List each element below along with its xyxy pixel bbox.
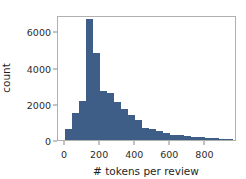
histogram-bar xyxy=(65,129,72,140)
x-axis-label: # tokens per review xyxy=(93,165,199,177)
histogram-bar xyxy=(205,138,212,140)
histogram-bar xyxy=(114,102,121,140)
plot-area xyxy=(57,16,236,141)
histogram-bar xyxy=(156,131,163,140)
histogram-bar xyxy=(142,128,149,140)
histogram-bar xyxy=(177,135,184,140)
x-tick-mark xyxy=(99,141,100,145)
y-axis: count 0200040006000 xyxy=(0,0,57,179)
histogram-bar xyxy=(149,129,156,140)
histogram-bar xyxy=(107,93,114,140)
x-tick-mark xyxy=(169,141,170,145)
histogram-bar xyxy=(184,136,191,140)
y-tick-label: 6000 xyxy=(27,27,51,38)
y-tick-label: 2000 xyxy=(27,99,51,110)
histogram-figure: count 0200040006000 # tokens per review … xyxy=(0,0,246,179)
x-axis: # tokens per review 0200400600800 xyxy=(57,141,236,179)
x-tick-mark xyxy=(64,141,65,145)
histogram-bars xyxy=(58,17,235,140)
histogram-bar xyxy=(170,135,177,140)
y-axis-label: count xyxy=(0,63,12,93)
x-tick-label: 200 xyxy=(90,149,108,160)
x-tick-label: 600 xyxy=(160,149,178,160)
histogram-bar xyxy=(163,133,170,140)
x-tick-label: 0 xyxy=(61,149,67,160)
histogram-bar xyxy=(226,139,233,140)
histogram-bar xyxy=(191,137,198,140)
histogram-bar xyxy=(128,115,135,140)
y-tick-label: 4000 xyxy=(27,63,51,74)
x-tick-mark xyxy=(134,141,135,145)
histogram-bar xyxy=(93,53,100,140)
y-tick-label: 0 xyxy=(45,136,51,147)
histogram-bar xyxy=(219,139,226,140)
histogram-bar xyxy=(86,19,93,140)
histogram-bar xyxy=(79,101,86,140)
x-tick-label: 400 xyxy=(125,149,143,160)
x-tick-mark xyxy=(204,141,205,145)
histogram-bar xyxy=(100,91,107,140)
histogram-bar xyxy=(135,120,142,140)
histogram-bar xyxy=(121,109,128,140)
histogram-bar xyxy=(212,138,219,140)
x-tick-label: 800 xyxy=(195,149,213,160)
histogram-bar xyxy=(72,113,79,140)
histogram-bar xyxy=(198,137,205,140)
